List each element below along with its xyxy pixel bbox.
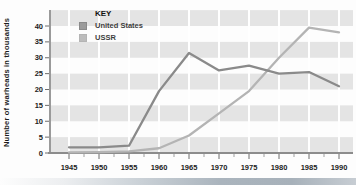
x-tick-label: 1970 — [211, 163, 228, 172]
legend-label-ussr: USSR — [95, 33, 116, 42]
line-chart-canvas: 0510152025303540194519501955196019651970… — [0, 0, 356, 185]
y-tick-label: 35 — [35, 37, 43, 46]
x-tick-label: 1980 — [271, 163, 288, 172]
x-tick-label: 1990 — [331, 163, 348, 172]
vertical-gridline — [308, 10, 310, 152]
y-tick-label: 30 — [35, 53, 43, 62]
y-tick-label: 10 — [35, 117, 43, 126]
vertical-gridline — [218, 10, 220, 152]
legend-title: KEY — [95, 9, 143, 18]
legend-item-ussr: USSR — [79, 33, 143, 42]
vertical-gridline — [248, 10, 250, 152]
y-tick-label: 20 — [35, 85, 43, 94]
vertical-gridline — [158, 10, 160, 152]
y-tick-label: 0 — [39, 149, 43, 158]
y-tick-label: 25 — [35, 69, 43, 78]
vertical-gridline — [278, 10, 280, 152]
x-tick-label: 1950 — [91, 163, 108, 172]
chart-legend: KEY United States USSR — [79, 9, 143, 42]
warheads-chart-figure: Number of warheads in thousands 05101520… — [0, 0, 356, 185]
y-tick-label: 15 — [35, 101, 43, 110]
vertical-gridline — [188, 10, 190, 152]
vertical-gridline — [68, 10, 70, 152]
y-tick-label: 5 — [39, 133, 43, 142]
x-tick-label: 1975 — [241, 163, 258, 172]
x-tick-label: 1960 — [151, 163, 168, 172]
x-tick-label: 1955 — [121, 163, 138, 172]
x-tick-label: 1985 — [301, 163, 318, 172]
x-tick-label: 1945 — [61, 163, 78, 172]
x-tick-label: 1965 — [181, 163, 198, 172]
stripe-band — [50, 137, 353, 153]
united-states-swatch-icon — [79, 22, 87, 30]
stripe-band — [50, 42, 353, 58]
stripe-band — [50, 105, 353, 121]
legend-item-united-states: United States — [79, 21, 143, 30]
decorative-gradient-bar — [0, 178, 356, 185]
ussr-swatch-icon — [79, 34, 87, 42]
united-states-line — [69, 53, 339, 147]
legend-label-united-states: United States — [95, 21, 143, 30]
stripe-band — [50, 74, 353, 90]
y-tick-label: 40 — [35, 22, 43, 31]
